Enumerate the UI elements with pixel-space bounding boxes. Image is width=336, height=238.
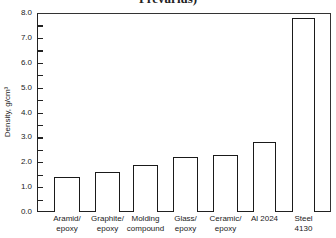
y-tick-label: 5.0 xyxy=(6,83,32,92)
x-tick-label-line: 4130 xyxy=(279,224,329,234)
bar-steel-4130 xyxy=(292,18,315,212)
y-tick-label: 8.0 xyxy=(6,8,32,17)
bar-ceramic-epoxy xyxy=(213,155,238,212)
bar-aramid-epoxy xyxy=(54,177,80,212)
y-tick-label: 3.0 xyxy=(6,132,32,141)
y-tick-label: 2.0 xyxy=(6,157,32,166)
bar-glass-epoxy xyxy=(173,157,198,212)
y-tick-label: 1.0 xyxy=(6,182,32,191)
bar-al-2024 xyxy=(253,142,276,212)
chart-title-fragment: Prevarius) xyxy=(0,0,336,7)
y-tick-label: 0.0 xyxy=(6,207,32,216)
y-tick-label: 7.0 xyxy=(6,33,32,42)
x-tick-label: Steel4130 xyxy=(279,214,329,234)
x-tick-label-line: Steel xyxy=(279,214,329,224)
bar-graphite-epoxy xyxy=(95,172,120,212)
y-tick-label: 6.0 xyxy=(6,58,32,67)
y-tick-label: 4.0 xyxy=(6,108,32,117)
bar-molding-compound xyxy=(133,165,158,212)
